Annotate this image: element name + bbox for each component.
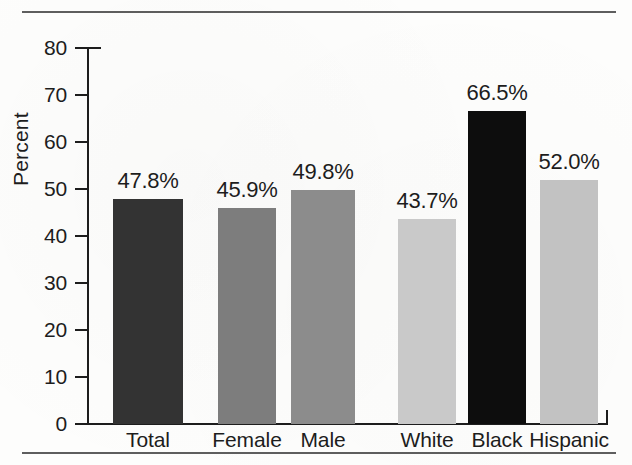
y-tick-label: 80 [0, 37, 75, 58]
y-tick-mark [75, 141, 88, 143]
y-tick-label: 40 [0, 225, 75, 246]
bar-hispanic [540, 180, 598, 424]
y-tick-label: 0 [0, 413, 75, 434]
y-tick-mark [75, 423, 88, 425]
bar-value-hispanic: 52.0% [524, 149, 614, 175]
y-tick-label: 20 [0, 319, 75, 340]
y-tick-label: 10 [0, 366, 75, 387]
bar-female [218, 208, 276, 424]
y-axis-label: Percent [9, 112, 33, 186]
y-tick-mark [75, 282, 88, 284]
bar-total [113, 199, 183, 424]
bar-male [291, 190, 355, 424]
y-tick-mark [75, 94, 88, 96]
bar-value-black: 66.5% [452, 80, 542, 106]
x-label-total: Total [93, 428, 203, 452]
bar-white [398, 219, 456, 424]
bar-chart: 01020304050607080 Percent 47.8%45.9%49.8… [0, 0, 632, 465]
y-tick-mark [75, 329, 88, 331]
bar-value-total: 47.8% [103, 168, 193, 194]
y-tick-label: 70 [0, 84, 75, 105]
y-tick-label: 30 [0, 272, 75, 293]
y-tick-mark [75, 376, 88, 378]
y-axis-top-cap [88, 47, 101, 49]
bar-black [468, 111, 526, 424]
figure-page: 01020304050607080 Percent 47.8%45.9%49.8… [0, 0, 632, 465]
bar-value-male: 49.8% [278, 159, 368, 185]
x-axis-right-cap [606, 410, 608, 424]
x-label-male: Male [268, 428, 378, 452]
bar-value-white: 43.7% [382, 188, 472, 214]
x-label-hispanic: Hispanic [514, 428, 624, 452]
y-tick-mark [75, 47, 88, 49]
y-tick-mark [75, 188, 88, 190]
y-tick-mark [75, 235, 88, 237]
